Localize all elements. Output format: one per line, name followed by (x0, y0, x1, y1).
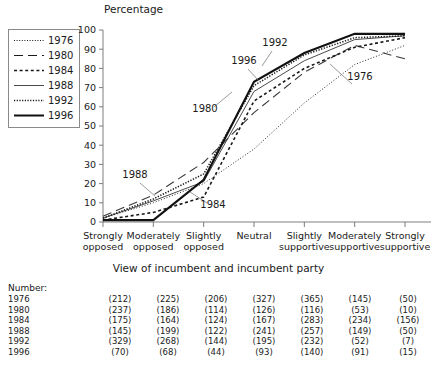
chart-annotations: 197619801984198819921996 (122, 37, 372, 210)
x-tick-label-5: Moderatelysupportive (328, 230, 382, 252)
number-cell-6: (50) (384, 294, 432, 305)
y-tick-label-40: 40 (84, 140, 96, 151)
number-cell-1: (268) (144, 336, 192, 347)
x-axis-title: View of incumbent and incumbent party (0, 262, 437, 274)
number-cell-5: (53) (336, 305, 384, 316)
number-row-spacer (38, 294, 96, 305)
x-tick-label-4: Slightlysupportive (279, 230, 330, 252)
annotation-leader-1992 (262, 51, 272, 66)
number-cell-3: (93) (240, 347, 288, 358)
annotation-label-1988: 1988 (122, 169, 147, 180)
number-cell-2: (44) (192, 347, 240, 358)
number-cell-1: (186) (144, 305, 192, 316)
number-row-spacer (38, 315, 96, 326)
number-cell-2: (122) (192, 326, 240, 337)
number-row-year: 1980 (8, 305, 38, 316)
number-row-year: 1976 (8, 294, 38, 305)
number-cell-6: (50) (384, 326, 432, 337)
number-row-year: 1988 (8, 326, 38, 337)
number-cell-0: (70) (96, 347, 144, 358)
table-row: 1976(212)(225)(206)(327)(365)(145)(50) (8, 294, 432, 305)
y-tick-label-0: 0 (90, 216, 96, 227)
number-cell-5: (145) (336, 294, 384, 305)
table-row: 1988(145)(199)(122)(241)(257)(149)(50) (8, 326, 432, 337)
number-cell-3: (241) (240, 326, 288, 337)
number-row-year: 1992 (8, 336, 38, 347)
number-cell-3: (327) (240, 294, 288, 305)
number-cell-4: (140) (288, 347, 336, 358)
number-cell-6: (7) (384, 336, 432, 347)
chart-plot-area: 0102030405060708090100 19761980198419881… (0, 0, 437, 290)
number-cell-0: (175) (96, 315, 144, 326)
number-cell-5: (149) (336, 326, 384, 337)
annotation-label-1996: 1996 (231, 55, 256, 66)
number-cell-4: (365) (288, 294, 336, 305)
number-cell-5: (52) (336, 336, 384, 347)
x-tick-label-6: Stronglysupportive (380, 230, 431, 252)
number-row-spacer (38, 347, 96, 358)
number-cell-2: (124) (192, 315, 240, 326)
number-cell-0: (329) (96, 336, 144, 347)
annotation-label-1984: 1984 (200, 199, 225, 210)
annotation-leader-1996 (248, 69, 258, 80)
y-tick-label-70: 70 (84, 82, 96, 93)
number-table: 1976(212)(225)(206)(327)(365)(145)(50)19… (8, 294, 432, 357)
y-tick-label-10: 10 (84, 197, 96, 208)
number-cell-6: (10) (384, 305, 432, 316)
table-row: 1980(237)(186)(114)(126)(116)(53)(10) (8, 305, 432, 316)
number-cell-2: (114) (192, 305, 240, 316)
x-tick-label-3: Neutral (236, 230, 271, 241)
number-table-heading: Number: (8, 283, 432, 293)
annotation-label-1976: 1976 (347, 71, 372, 82)
number-cell-1: (199) (144, 326, 192, 337)
y-tick-label-100: 100 (78, 24, 96, 35)
y-tick-label-60: 60 (84, 101, 96, 112)
number-cell-0: (212) (96, 294, 144, 305)
number-cell-1: (68) (144, 347, 192, 358)
y-tick-label-80: 80 (84, 63, 96, 74)
number-cell-4: (257) (288, 326, 336, 337)
number-cell-0: (237) (96, 305, 144, 316)
number-row-spacer (38, 336, 96, 347)
number-cell-3: (167) (240, 315, 288, 326)
number-cell-4: (232) (288, 336, 336, 347)
table-row: 1996(70)(68)(44)(93)(140)(91)(15) (8, 347, 432, 358)
number-cell-3: (126) (240, 305, 288, 316)
y-tick-label-20: 20 (84, 178, 96, 189)
x-axis-tick-labels: StronglyopposedModeratelyopposedSlightly… (83, 230, 431, 252)
number-cell-1: (225) (144, 294, 192, 305)
x-tick-label-0: Stronglyopposed (83, 230, 124, 252)
annotation-label-1980: 1980 (192, 103, 217, 114)
number-cell-6: (15) (384, 347, 432, 358)
y-tick-label-30: 30 (84, 159, 96, 170)
number-cell-2: (144) (192, 336, 240, 347)
annotation-label-1992: 1992 (262, 37, 287, 48)
number-cell-4: (116) (288, 305, 336, 316)
number-cell-4: (283) (288, 315, 336, 326)
table-row: 1984(175)(164)(124)(167)(283)(234)(156) (8, 315, 432, 326)
y-tick-label-50: 50 (84, 120, 96, 131)
x-tick-label-1: Moderatelyopposed (127, 230, 181, 252)
number-row-spacer (38, 326, 96, 337)
number-cell-6: (156) (384, 315, 432, 326)
number-cell-5: (91) (336, 347, 384, 358)
number-cell-2: (206) (192, 294, 240, 305)
x-tick-label-2: Slightlyopposed (183, 230, 224, 252)
table-row: 1992(329)(268)(144)(195)(232)(52)(7) (8, 336, 432, 347)
annotation-leader-1988 (140, 183, 155, 196)
number-row-year: 1984 (8, 315, 38, 326)
line-chart-svg: 0102030405060708090100 19761980198419881… (0, 0, 437, 290)
number-row-year: 1996 (8, 347, 38, 358)
number-cell-5: (234) (336, 315, 384, 326)
sample-size-table: Number: 1976(212)(225)(206)(327)(365)(14… (8, 283, 432, 357)
number-row-spacer (38, 305, 96, 316)
y-tick-label-90: 90 (84, 44, 96, 55)
number-cell-3: (195) (240, 336, 288, 347)
number-cell-0: (145) (96, 326, 144, 337)
number-cell-1: (164) (144, 315, 192, 326)
